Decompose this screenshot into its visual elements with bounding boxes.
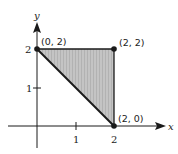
point-label-2-0: (2, 0): [118, 113, 144, 124]
point-label-0-2: (0, 2): [41, 36, 67, 47]
y-tick-label-2: 2: [25, 44, 31, 55]
coordinate-diagram: y x 1 2 1 2 (0, 2) (2, 2) (2, 0): [0, 0, 178, 154]
x-tick-label-2: 2: [111, 134, 117, 145]
point-0-2: [34, 46, 40, 52]
y-axis-label: y: [33, 10, 40, 21]
point-2-0: [111, 123, 117, 129]
x-tick-label-1: 1: [73, 134, 79, 145]
point-label-2-2: (2, 2): [119, 37, 145, 48]
point-2-2: [111, 46, 117, 52]
x-axis-label: x: [168, 121, 174, 132]
plot-canvas: y x 1 2 1 2 (0, 2) (2, 2) (2, 0): [0, 0, 178, 154]
y-tick-label-1: 1: [26, 83, 32, 94]
